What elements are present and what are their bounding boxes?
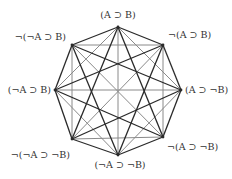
vertex-right (180, 89, 183, 92)
vertex-bottom (117, 154, 120, 157)
label-left: (¬A ⊃ B) (8, 84, 51, 95)
graph-edges (55, 27, 181, 155)
vertex-left (54, 89, 57, 92)
vertex-top (117, 26, 120, 29)
edge-bottom-lower-left (72, 139, 118, 155)
label-upper-left: ¬(¬A ⊃ B) (15, 31, 66, 42)
vertex-upper-left (71, 44, 74, 47)
label-lower-right: ¬(A ⊃ ¬B) (167, 141, 218, 152)
edge-left-upper-left (55, 45, 72, 90)
label-upper-right: ¬(A ⊃ B) (168, 29, 211, 40)
label-lower-left: ¬(¬A ⊃ ¬B) (11, 149, 70, 160)
vertex-lower-left (71, 138, 74, 141)
edge-top-lower-left (72, 27, 118, 139)
edge-lower-left-left (55, 90, 72, 139)
label-bottom: (¬A ⊃ ¬B) (94, 159, 145, 170)
vertex-lower-right (162, 136, 165, 139)
label-right: (A ⊃ ¬B) (185, 84, 228, 95)
label-top: (A ⊃ B) (100, 9, 135, 20)
vertex-upper-right (162, 44, 165, 47)
octagon-complete-graph: (A ⊃ B) ¬(A ⊃ B) (A ⊃ ¬B) ¬(A ⊃ ¬B) (¬A … (0, 0, 232, 179)
